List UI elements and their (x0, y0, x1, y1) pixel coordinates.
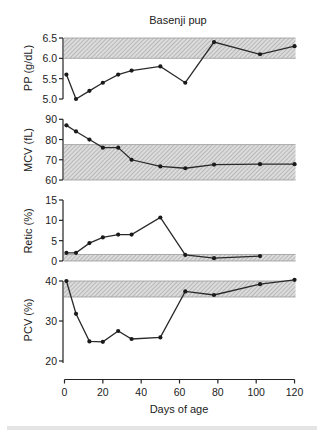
data-point (116, 232, 120, 236)
panel-mcv: 60708090MCV (fL) (22, 113, 297, 186)
data-point (64, 73, 68, 77)
x-axis-label: Days of age (150, 403, 209, 415)
data-point (101, 235, 105, 239)
y-tick-label: 30 (45, 315, 57, 327)
x-tick-label: 100 (247, 386, 265, 398)
data-point (158, 335, 162, 339)
panel-pcv: 203040PCV (%) (22, 275, 297, 367)
data-point (183, 253, 187, 257)
data-point (64, 251, 68, 255)
data-point (183, 81, 187, 85)
data-point (183, 166, 187, 170)
y-tick-label: 5 (51, 235, 57, 247)
data-point (258, 52, 262, 56)
data-point (258, 254, 262, 258)
y-tick-label: 80 (45, 134, 57, 146)
data-point (87, 137, 91, 141)
data-point (258, 282, 262, 286)
data-point (87, 241, 91, 245)
y-tick-label: 5.5 (42, 73, 57, 85)
data-point (158, 164, 162, 168)
data-point (74, 97, 78, 101)
data-point (158, 64, 162, 68)
y-tick-label: 5.0 (42, 93, 57, 105)
data-point (74, 251, 78, 255)
panel-retic: 051015Retic (%) (22, 194, 296, 267)
data-point (87, 339, 91, 343)
y-axis-label-retic: Retic (%) (22, 208, 34, 253)
basenji-pup-chart: Basenji pup 5.05.56.06.5PP (g/dL)6070809… (0, 0, 324, 430)
y-tick-label: 20 (45, 355, 57, 367)
data-point (116, 73, 120, 77)
x-tick-label: 20 (97, 386, 109, 398)
x-axis: 020406080100120 (62, 380, 304, 398)
data-point (292, 44, 296, 48)
y-tick-label: 10 (45, 214, 57, 226)
y-tick-label: 90 (45, 113, 57, 125)
footer-strip (7, 426, 317, 430)
data-point (74, 312, 78, 316)
data-point (116, 329, 120, 333)
data-point (212, 163, 216, 167)
data-point (129, 158, 133, 162)
x-tick-label: 0 (62, 386, 68, 398)
data-point (101, 340, 105, 344)
y-tick-label: 6.0 (42, 52, 57, 64)
y-axis-label-pcv: PCV (%) (22, 299, 34, 342)
data-point (101, 81, 105, 85)
data-point (129, 337, 133, 341)
y-tick-label: 15 (45, 194, 57, 206)
data-point (212, 256, 216, 260)
data-point (116, 146, 120, 150)
y-tick-label: 60 (45, 174, 57, 186)
data-point (292, 278, 296, 282)
y-tick-label: 70 (45, 154, 57, 166)
data-point (64, 123, 68, 127)
series-line-retic (66, 217, 260, 258)
y-tick-label: 40 (45, 275, 57, 287)
chart-panels: 5.05.56.06.5PP (g/dL)60708090MCV (fL)051… (22, 32, 297, 367)
x-tick-label: 80 (212, 386, 224, 398)
data-point (158, 215, 162, 219)
data-point (87, 89, 91, 93)
y-tick-label: 0 (51, 255, 57, 267)
data-point (212, 40, 216, 44)
x-tick-label: 120 (286, 386, 304, 398)
data-point (212, 293, 216, 297)
y-axis-label-mcv: MCV (fL) (22, 128, 34, 172)
y-axis-label-pp: PP (g/dL) (22, 45, 34, 91)
data-point (64, 279, 68, 283)
x-tick-label: 60 (174, 386, 186, 398)
chart-title: Basenji pup (149, 14, 207, 26)
data-point (101, 146, 105, 150)
y-tick-label: 6.5 (42, 32, 57, 44)
data-point (183, 289, 187, 293)
panel-pp: 5.05.56.06.5PP (g/dL) (22, 32, 297, 105)
data-point (74, 129, 78, 133)
data-point (129, 232, 133, 236)
data-point (129, 68, 133, 72)
x-tick-label: 40 (135, 386, 147, 398)
data-point (292, 162, 296, 166)
data-point (258, 162, 262, 166)
